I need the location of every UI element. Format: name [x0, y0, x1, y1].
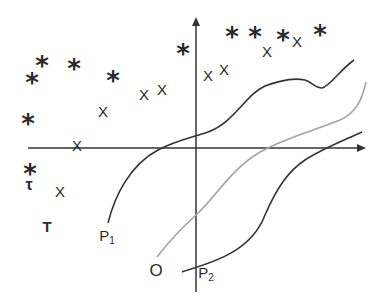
- label-p1-sub: 1: [109, 235, 115, 246]
- cross-marker: X: [139, 87, 149, 102]
- label-o: O: [149, 262, 162, 279]
- star-marker: *: [225, 24, 239, 50]
- cross-marker: X: [157, 82, 167, 97]
- label-tau: τ: [25, 177, 32, 193]
- label-t: T: [42, 219, 51, 234]
- label-p2-sub: 2: [208, 272, 214, 283]
- label-p1: P1: [99, 228, 115, 246]
- cross-marker: X: [55, 184, 65, 199]
- star-marker: *: [67, 56, 81, 82]
- cross-marker: X: [262, 44, 272, 59]
- star-marker: *: [176, 41, 190, 67]
- star-marker: *: [106, 68, 120, 94]
- label-p2: P2: [198, 265, 214, 283]
- label-p1-main: P: [99, 227, 109, 244]
- cross-marker: X: [219, 62, 229, 77]
- label-p2-main: P: [198, 264, 208, 281]
- star-marker: *: [35, 53, 49, 79]
- star-marker: *: [248, 24, 262, 50]
- star-marker: *: [276, 27, 290, 53]
- star-marker: *: [21, 111, 35, 137]
- cross-marker: X: [72, 138, 82, 153]
- cross-marker: X: [98, 104, 108, 119]
- cross-marker: X: [203, 68, 213, 83]
- diagram-canvas: * * * * * * * * * * * X X X X X X X X X …: [0, 0, 384, 300]
- cross-marker: X: [292, 34, 302, 49]
- x-axis-arrow-icon: [357, 144, 366, 152]
- curve-p1: [108, 60, 354, 223]
- star-marker: *: [313, 22, 327, 48]
- curve-o: [157, 82, 366, 257]
- y-axis-arrow-icon: [192, 17, 200, 26]
